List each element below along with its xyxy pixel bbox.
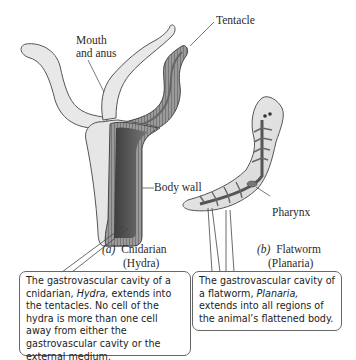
label-body-wall: Body wall: [154, 181, 202, 194]
label-pharynx: Pharynx: [272, 206, 310, 219]
panel-b-letter: (b): [257, 243, 270, 255]
label-mouth-and-anus: Mouth and anus: [76, 34, 117, 60]
panel-b-name: Flatworm: [276, 243, 321, 255]
callout-hydra: The gastrovascular cavity of a cnidarian…: [19, 271, 191, 356]
callout-planaria: The gastrovascular cavity of a flatworm,…: [192, 271, 342, 331]
panel-a-letter: (a): [102, 243, 115, 255]
callout-planaria-text-2: extends into all regions of the animal’s…: [199, 300, 333, 324]
panel-a-genus: (Hydra): [123, 257, 159, 270]
hydra-illustration: [21, 22, 214, 272]
panel-a-name: Cnidarian: [121, 243, 166, 255]
callout-planaria-genus: Planaria,: [257, 288, 299, 299]
panel-b-caption: (b) Flatworm: [257, 243, 321, 256]
gastrovascular-cavity-figure: Mouth and anus Tentacle Body wall Pharyn…: [0, 0, 356, 360]
label-tentacle: Tentacle: [216, 14, 255, 27]
callout-hydra-genus: Hydra,: [77, 288, 109, 299]
panel-b-genus: (Planaria): [268, 257, 313, 270]
label-mouth-line: Mouth: [76, 34, 117, 47]
label-anus-line: and anus: [76, 47, 117, 60]
panel-a-caption: (a) Cnidarian: [102, 243, 167, 256]
